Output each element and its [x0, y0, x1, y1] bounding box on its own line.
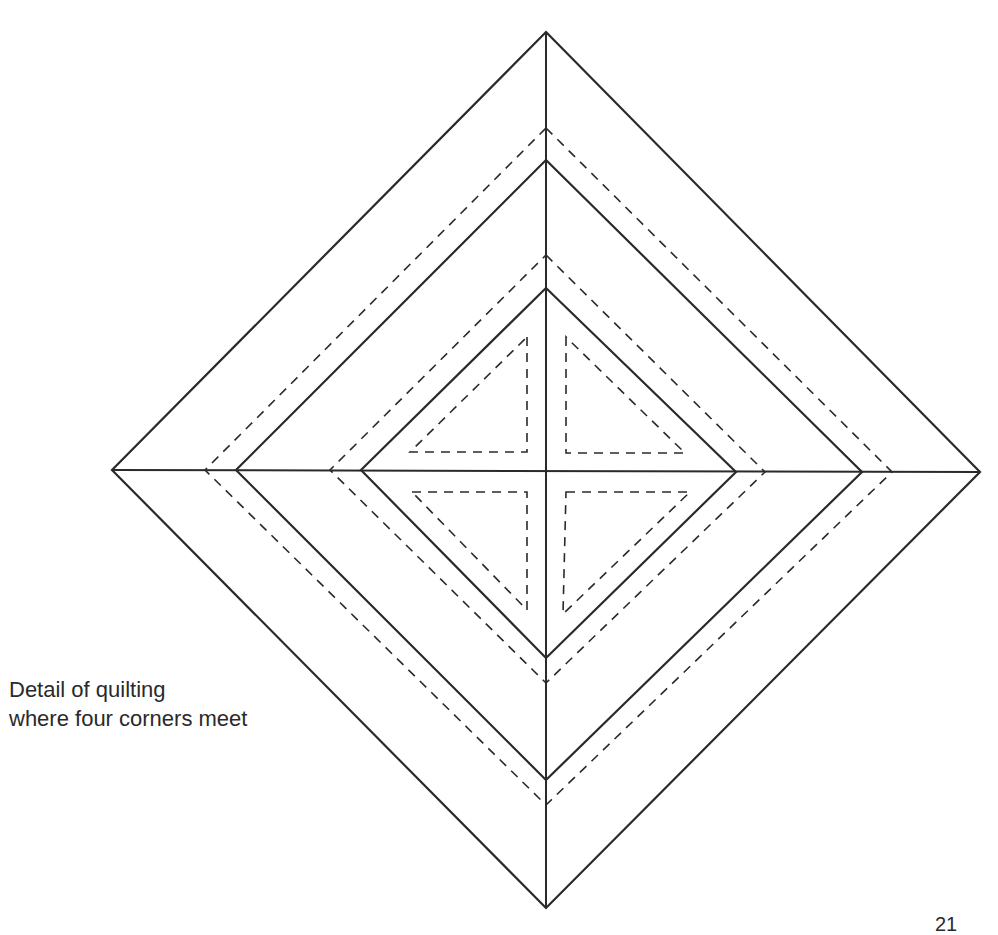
diamond-solid-4: [361, 288, 736, 658]
caption-line-2: where four corners meet: [9, 704, 247, 733]
caption-line-1: Detail of quilting: [9, 675, 247, 704]
center-cross-lines: [112, 32, 980, 908]
diamond-dashed-1: [205, 128, 892, 805]
triangle-bottom-left: [412, 492, 527, 610]
triangle-top-right: [566, 337, 685, 453]
horizontal-seam-line: [112, 470, 980, 472]
page-number: 21: [935, 913, 957, 935]
triangle-top-left: [410, 337, 527, 452]
caption: Detail of quilting where four corners me…: [9, 675, 247, 733]
triangle-bottom-right: [563, 492, 690, 614]
inner-quilting-triangles: [410, 337, 690, 614]
diamond-dashed-3: [330, 255, 765, 683]
